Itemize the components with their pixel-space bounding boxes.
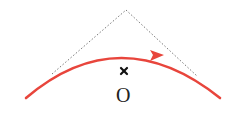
- arrow-head-icon: [150, 50, 164, 61]
- center-label: O: [116, 84, 130, 107]
- tangent-lines: [52, 10, 197, 76]
- cross-marker-icon: [121, 68, 127, 74]
